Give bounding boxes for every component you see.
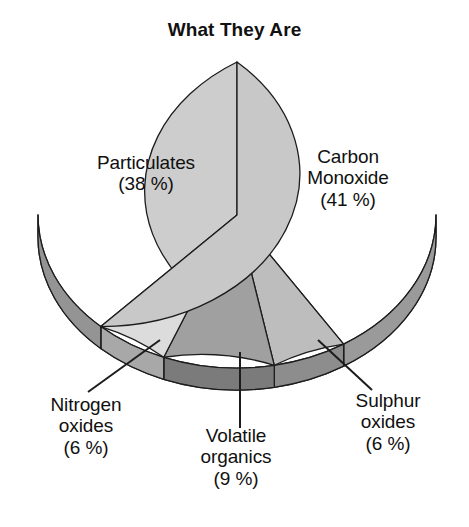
slice-label-volatile-organics: Volatile organics (9 %) (160, 425, 312, 489)
pie-side-carbon-monoxide (344, 215, 436, 366)
slice-label-carbon-monoxide: Carbon Monoxide (41 %) (278, 146, 418, 210)
slice-label-nitrogen-oxides: Nitrogen oxides (6 %) (14, 394, 158, 458)
pie-side-particulates (38, 215, 101, 349)
slice-label-sulphur-oxides: Sulphur oxides (6 %) (318, 390, 458, 454)
pie-top-faces (101, 62, 344, 365)
slice-label-particulates: Particulates (38 %) (58, 152, 234, 195)
pie-side-volatile-organics (164, 357, 275, 390)
pie-chart: What They Are Particulates (38 %) Carbon… (0, 0, 469, 527)
